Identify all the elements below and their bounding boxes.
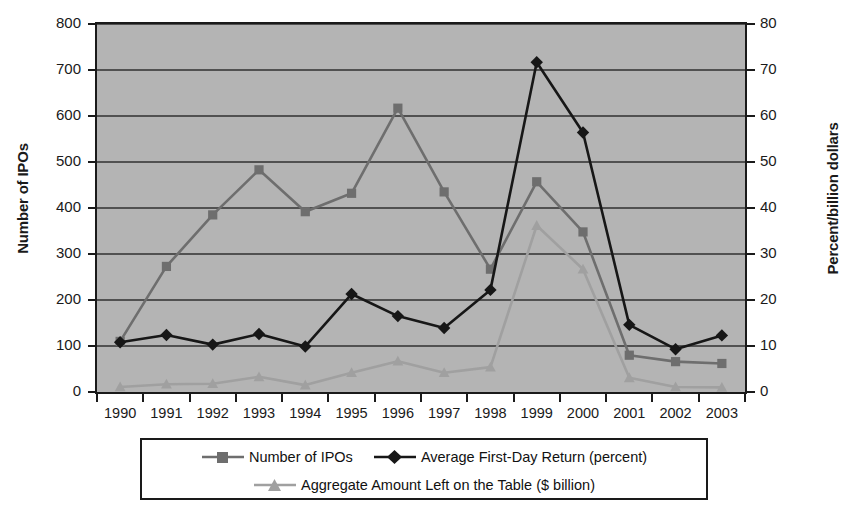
axis-spine xyxy=(95,392,747,394)
y-tick-label-left: 100 xyxy=(35,336,81,353)
x-tick-label: 1999 xyxy=(511,405,563,421)
x-tick-label: 1993 xyxy=(233,405,285,421)
y-tick-mark-right xyxy=(747,69,755,71)
x-tick-mark xyxy=(235,394,237,402)
y-tick-label-left: 0 xyxy=(35,382,81,399)
chart-canvas xyxy=(97,24,745,392)
x-tick-label: 1997 xyxy=(418,405,470,421)
axis-spine xyxy=(95,22,747,24)
x-tick-label: 1998 xyxy=(464,405,516,421)
y-tick-label-left: 700 xyxy=(35,60,81,77)
x-tick-mark xyxy=(466,394,468,402)
y-tick-mark-right xyxy=(747,161,755,163)
x-tick-label: 1996 xyxy=(372,405,424,421)
y-tick-label-left: 300 xyxy=(35,244,81,261)
x-tick-label: 1994 xyxy=(279,405,331,421)
legend-label-number-of-ipos: Number of IPOs xyxy=(249,449,353,465)
x-tick-mark xyxy=(281,394,283,402)
y-tick-mark-right xyxy=(747,299,755,301)
y-tick-label-right: 50 xyxy=(760,152,800,169)
legend-item-number-of-ipos: Number of IPOs xyxy=(201,449,353,465)
legend-label-aggregate-amount-left: Aggregate Amount Left on the Table ($ bi… xyxy=(301,477,595,493)
y-axis-right-title: Percent/billion dollars xyxy=(824,89,841,309)
y-tick-mark-right xyxy=(747,23,755,25)
y-tick-mark-right xyxy=(747,207,755,209)
y-tick-mark-right xyxy=(747,345,755,347)
x-tick-mark xyxy=(559,394,561,402)
legend-row-2: Aggregate Amount Left on the Table ($ bi… xyxy=(142,471,706,499)
plot-area xyxy=(97,24,745,392)
x-tick-mark xyxy=(142,394,144,402)
legend-marker-diamond-icon xyxy=(373,449,417,465)
chart-figure: Number of IPOs Percent/billion dollars 0… xyxy=(0,0,854,514)
x-tick-label: 1992 xyxy=(187,405,239,421)
x-tick-label: 2002 xyxy=(650,405,702,421)
x-tick-mark xyxy=(605,394,607,402)
y-tick-label-right: 10 xyxy=(760,336,800,353)
x-tick-mark xyxy=(744,394,746,402)
y-tick-label-left: 800 xyxy=(35,14,81,31)
legend-marker-square-icon xyxy=(201,449,245,465)
legend-row-1: Number of IPOs Average First-Day Return … xyxy=(142,443,706,471)
axis-spine xyxy=(95,24,97,394)
x-tick-mark xyxy=(327,394,329,402)
x-tick-label: 1990 xyxy=(94,405,146,421)
x-tick-label: 2001 xyxy=(603,405,655,421)
y-tick-label-left: 400 xyxy=(35,198,81,215)
y-tick-label-right: 80 xyxy=(760,14,800,31)
y-tick-label-right: 0 xyxy=(760,382,800,399)
x-tick-label: 1995 xyxy=(326,405,378,421)
y-tick-label-right: 70 xyxy=(760,60,800,77)
y-tick-label-right: 60 xyxy=(760,106,800,123)
legend-item-average-first-day-return: Average First-Day Return (percent) xyxy=(373,449,647,465)
y-tick-label-left: 200 xyxy=(35,290,81,307)
y-tick-label-right: 40 xyxy=(760,198,800,215)
y-tick-label-right: 30 xyxy=(760,244,800,261)
y-tick-mark-right xyxy=(747,115,755,117)
x-tick-mark xyxy=(96,394,98,402)
x-tick-mark xyxy=(651,394,653,402)
chart-legend: Number of IPOs Average First-Day Return … xyxy=(140,438,708,500)
y-tick-label-left: 600 xyxy=(35,106,81,123)
x-tick-mark xyxy=(420,394,422,402)
x-tick-label: 1991 xyxy=(140,405,192,421)
y-tick-label-right: 20 xyxy=(760,290,800,307)
x-tick-mark xyxy=(189,394,191,402)
legend-label-average-first-day-return: Average First-Day Return (percent) xyxy=(421,449,647,465)
x-tick-mark xyxy=(374,394,376,402)
x-tick-label: 2000 xyxy=(557,405,609,421)
y-tick-mark-right xyxy=(747,391,755,393)
x-tick-label: 2003 xyxy=(696,405,748,421)
y-axis-left-title: Number of IPOs xyxy=(14,89,31,309)
x-tick-mark xyxy=(698,394,700,402)
y-tick-mark-right xyxy=(747,253,755,255)
x-tick-mark xyxy=(513,394,515,402)
axis-spine xyxy=(745,24,747,394)
legend-marker-triangle-icon xyxy=(253,477,297,493)
y-tick-label-left: 500 xyxy=(35,152,81,169)
legend-item-aggregate-amount-left: Aggregate Amount Left on the Table ($ bi… xyxy=(253,477,595,493)
